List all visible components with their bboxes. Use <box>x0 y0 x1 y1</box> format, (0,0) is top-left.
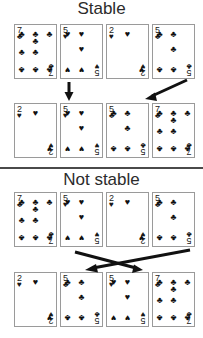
card-pip-field: ♥♥♥♥♥ <box>111 276 144 323</box>
suit-heart-icon: ♥ <box>77 124 86 133</box>
suit-club-icon: ♣ <box>17 48 26 57</box>
card-pip-field: ♣♣♣♣♣♣♣♣♣ <box>157 107 190 154</box>
suit-heart-icon: ♥ <box>63 65 72 74</box>
suit-club-icon: ♣ <box>123 109 132 118</box>
suit-heart-icon: ♥ <box>63 233 72 242</box>
card-5-heart[interactable]: 5♥5♥♥♥♥♥♥ <box>106 272 149 327</box>
suit-club-icon: ♣ <box>155 296 164 305</box>
suit-heart-icon: ♥ <box>137 65 146 74</box>
card-5-club[interactable]: 5♣5♣♣♣♣♣♣ <box>106 103 149 158</box>
suit-club-icon: ♣ <box>77 278 86 287</box>
section-heading-stable: Stable <box>0 0 203 19</box>
suit-heart-icon: ♥ <box>123 278 132 287</box>
card-7-club[interactable]: 7♣7♣♣♣♣♣♣♣♣♣♣ <box>14 192 57 247</box>
section-heading-not-stable: Not stable <box>0 170 203 190</box>
suit-heart-icon: ♥ <box>123 293 132 302</box>
suit-club-icon: ♣ <box>169 30 178 39</box>
suit-club-icon: ♣ <box>169 313 178 322</box>
card-7-club[interactable]: 7♣7♣♣♣♣♣♣♣♣♣♣ <box>14 24 57 79</box>
suit-club-icon: ♣ <box>155 109 164 118</box>
card-pip-field: ♣♣♣♣♣ <box>65 276 98 323</box>
suit-club-icon: ♣ <box>45 233 54 242</box>
suit-club-icon: ♣ <box>31 37 40 46</box>
card-5-club[interactable]: 5♣5♣♣♣♣♣♣ <box>152 192 195 247</box>
suit-heart-icon: ♥ <box>45 313 54 322</box>
suit-club-icon: ♣ <box>183 278 192 287</box>
suit-club-icon: ♣ <box>169 127 178 136</box>
suit-club-icon: ♣ <box>169 144 178 153</box>
suit-heart-icon: ♥ <box>77 233 86 242</box>
suit-heart-icon: ♥ <box>77 144 86 153</box>
card-2-heart[interactable]: 2♥2♥♥♥ <box>106 192 149 247</box>
suit-club-icon: ♣ <box>77 293 86 302</box>
card-5-club[interactable]: 5♣5♣♣♣♣♣♣ <box>152 24 195 79</box>
suit-heart-icon: ♥ <box>77 30 86 39</box>
suit-heart-icon: ♥ <box>137 233 146 242</box>
suit-club-icon: ♣ <box>183 313 192 322</box>
suit-club-icon: ♣ <box>169 213 178 222</box>
suit-club-icon: ♣ <box>63 313 72 322</box>
card-5-heart[interactable]: 5♥5♥♥♥♥♥♥ <box>60 24 103 79</box>
suit-club-icon: ♣ <box>77 313 86 322</box>
suit-club-icon: ♣ <box>17 65 26 74</box>
card-pip-field: ♣♣♣♣♣♣♣♣♣ <box>19 196 52 243</box>
suit-heart-icon: ♥ <box>123 198 132 207</box>
card-2-heart[interactable]: 2♥2♥♥♥ <box>14 272 57 327</box>
suit-heart-icon: ♥ <box>31 278 40 287</box>
suit-club-icon: ♣ <box>45 198 54 207</box>
card-pip-field: ♥♥♥♥♥ <box>65 107 98 154</box>
card-5-club[interactable]: 5♣5♣♣♣♣♣♣ <box>60 272 103 327</box>
suit-club-icon: ♣ <box>17 30 26 39</box>
card-2-heart[interactable]: 2♥2♥♥♥ <box>106 24 149 79</box>
card-7-club[interactable]: 7♣7♣♣♣♣♣♣♣♣♣♣ <box>152 103 195 158</box>
suit-club-icon: ♣ <box>169 116 178 125</box>
card-pip-field: ♥♥ <box>19 107 52 154</box>
suit-heart-icon: ♥ <box>123 30 132 39</box>
suit-club-icon: ♣ <box>169 233 178 242</box>
suit-club-icon: ♣ <box>169 45 178 54</box>
card-pip-field: ♣♣♣♣♣ <box>111 107 144 154</box>
suit-heart-icon: ♥ <box>31 109 40 118</box>
suit-club-icon: ♣ <box>183 144 192 153</box>
card-5-heart[interactable]: 5♥5♥♥♥♥♥♥ <box>60 192 103 247</box>
suit-club-icon: ♣ <box>31 216 40 225</box>
suit-heart-icon: ♥ <box>63 144 72 153</box>
suit-heart-icon: ♥ <box>63 109 72 118</box>
suit-club-icon: ♣ <box>155 313 164 322</box>
suit-club-icon: ♣ <box>31 205 40 214</box>
card-7-club[interactable]: 7♣7♣♣♣♣♣♣♣♣♣♣ <box>152 272 195 327</box>
suit-club-icon: ♣ <box>155 127 164 136</box>
suit-heart-icon: ♥ <box>45 144 54 153</box>
arrow-5club-down-left <box>145 80 187 101</box>
suit-heart-icon: ♥ <box>63 30 72 39</box>
arrow-5heart-cross-right <box>75 252 143 273</box>
card-5-heart[interactable]: 5♥5♥♥♥♥♥♥ <box>60 103 103 158</box>
card-pip-field: ♥♥ <box>111 196 144 243</box>
suit-heart-icon: ♥ <box>123 313 132 322</box>
suit-club-icon: ♣ <box>31 48 40 57</box>
suit-club-icon: ♣ <box>169 65 178 74</box>
card-pip-field: ♣♣♣♣♣ <box>157 196 190 243</box>
suit-club-icon: ♣ <box>169 285 178 294</box>
suit-club-icon: ♣ <box>31 233 40 242</box>
card-2-heart[interactable]: 2♥2♥♥♥ <box>14 103 57 158</box>
arrow-5club-cross-left <box>85 250 190 273</box>
suit-club-icon: ♣ <box>63 278 72 287</box>
suit-club-icon: ♣ <box>17 216 26 225</box>
card-pip-field: ♥♥♥♥♥ <box>65 28 98 75</box>
suit-heart-icon: ♥ <box>109 278 118 287</box>
suit-club-icon: ♣ <box>45 65 54 74</box>
suit-heart-icon: ♥ <box>77 45 86 54</box>
card-pip-field: ♥♥ <box>19 276 52 323</box>
suit-heart-icon: ♥ <box>77 109 86 118</box>
suit-club-icon: ♣ <box>31 65 40 74</box>
suit-heart-icon: ♥ <box>77 65 86 74</box>
suit-club-icon: ♣ <box>155 278 164 287</box>
suit-club-icon: ♣ <box>109 109 118 118</box>
suit-club-icon: ♣ <box>169 296 178 305</box>
figure-canvas: Stable 7♣7♣♣♣♣♣♣♣♣♣♣5♥5♥♥♥♥♥♥2♥2♥♥♥5♣5♣♣… <box>0 0 203 338</box>
card-pip-field: ♣♣♣♣♣ <box>157 28 190 75</box>
suit-heart-icon: ♥ <box>77 198 86 207</box>
suit-club-icon: ♣ <box>169 198 178 207</box>
suit-club-icon: ♣ <box>155 30 164 39</box>
